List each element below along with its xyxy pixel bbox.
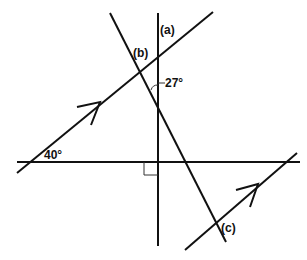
label-angle-27: 27° bbox=[165, 76, 183, 90]
right-angle-marker-icon bbox=[144, 162, 158, 175]
label-c: (c) bbox=[221, 221, 236, 235]
geometry-diagram: (a) (b) 27° 40° (c) bbox=[0, 0, 307, 260]
label-angle-40: 40° bbox=[44, 148, 62, 162]
parallel-line-lower bbox=[185, 153, 297, 250]
label-a: (a) bbox=[160, 23, 175, 37]
angle-arc-icon bbox=[151, 85, 158, 90]
transversal-line bbox=[110, 13, 226, 242]
label-b: (b) bbox=[133, 46, 148, 60]
